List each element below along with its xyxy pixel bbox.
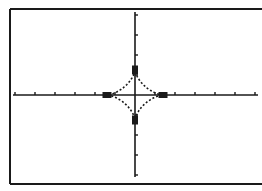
cusp-marker: [159, 92, 168, 98]
cusp-marker: [132, 116, 138, 125]
graph-canvas: [0, 0, 262, 191]
calculator-graph-screen: [0, 0, 262, 191]
cusp-marker: [103, 92, 112, 98]
axes: [13, 12, 258, 177]
cusp-marker: [132, 66, 138, 75]
